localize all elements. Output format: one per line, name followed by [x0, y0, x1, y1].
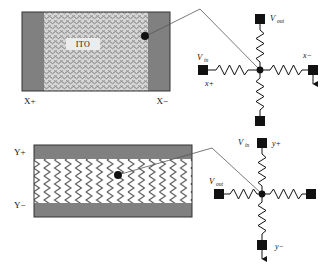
x-circuit-vin-label: V — [197, 52, 204, 62]
y-circuit-vin-sublabel: in — [245, 142, 250, 148]
y-circuit-right-resistor — [262, 189, 308, 199]
y-plus-electrode-bar — [34, 145, 192, 159]
x-circuit-right-resistor — [260, 65, 310, 75]
y-circuit-upper-resistor — [258, 148, 266, 194]
y-circuit-center-node — [259, 191, 266, 198]
y-circuit-lower-resistor — [258, 194, 266, 240]
x-negative-axis-label: x− — [302, 51, 312, 60]
y-minus-label: Y− — [14, 200, 26, 210]
y-circuit-vout-sublabel: out — [216, 181, 224, 187]
x-circuit-vin-sublabel: in — [204, 57, 209, 63]
x-circuit-upper-resistor — [256, 24, 264, 70]
figure-canvas: ITO X+ X− V out V in x+ x− — [0, 0, 326, 271]
x-circuit-xminus-pad[interactable] — [308, 65, 318, 75]
x-circuit-vout-sublabel: out — [277, 18, 285, 24]
x-circuit-lower-resistor — [256, 70, 264, 116]
y-circuit-vout-pad[interactable] — [214, 189, 224, 199]
x-layer-touch-point — [141, 32, 149, 40]
x-minus-label: X− — [156, 96, 168, 106]
x-layer-circuit: V out V in x+ x− — [197, 13, 318, 126]
y-positive-axis-label: y+ — [271, 139, 281, 148]
y-circuit-vin-pad[interactable] — [257, 138, 267, 148]
y-layer-touch-point — [114, 171, 122, 179]
x-circuit-center-node — [257, 67, 264, 74]
x-circuit-left-resistor — [208, 65, 260, 75]
x-positive-axis-label: x+ — [204, 79, 214, 88]
touchscreen-figure: ITO X+ X− V out V in x+ x− — [0, 0, 326, 271]
x-circuit-vout-pad[interactable] — [255, 14, 265, 24]
y-layer-panel: Y+ Y− — [14, 145, 192, 217]
x-plus-electrode-bar — [22, 12, 44, 91]
x-circuit-bottom-pad[interactable] — [255, 116, 265, 126]
x-layer-ito-film — [22, 12, 170, 91]
ito-label: ITO — [76, 40, 90, 49]
x-circuit-vin-pad[interactable] — [198, 65, 208, 75]
x-minus-electrode-bar — [148, 12, 170, 91]
y-layer-circuit: V in y+ V out y− — [209, 137, 316, 259]
y-minus-electrode-bar — [34, 203, 192, 217]
y-circuit-left-resistor — [224, 189, 262, 199]
y-plus-label: Y+ — [14, 147, 26, 157]
y-circuit-vout-label: V — [209, 176, 216, 186]
y-circuit-yminus-pad[interactable] — [257, 240, 267, 250]
y-circuit-right-pad[interactable] — [306, 189, 316, 199]
y-negative-axis-label: y− — [274, 242, 284, 251]
x-circuit-vout-label: V — [270, 13, 277, 23]
x-plus-label: X+ — [24, 96, 36, 106]
y-circuit-vin-label: V — [238, 137, 245, 147]
x-layer-panel: ITO X+ X− — [22, 12, 170, 106]
